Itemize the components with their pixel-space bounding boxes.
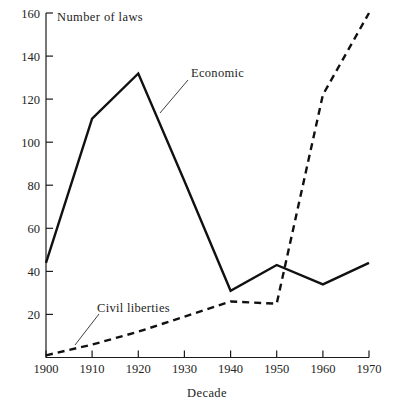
y-tick-label-60: 60 [28, 222, 41, 236]
x-tick-label-1930: 1930 [172, 362, 197, 376]
y-tick-label-120: 120 [21, 93, 40, 107]
x-tick-label-1900: 1900 [34, 362, 59, 376]
x-tick-label-1950: 1950 [264, 362, 289, 376]
x-tick-label-1910: 1910 [80, 362, 105, 376]
line-chart-canvas: 160 140 120 100 80 60 40 20 1900 1910 19… [0, 0, 399, 409]
civil-liberties-leader-line [75, 314, 99, 345]
economic-leader-line [160, 80, 188, 113]
x-tick-label-1960: 1960 [310, 362, 335, 376]
y-tick-label-20: 20 [28, 308, 41, 322]
y-tick-label-160: 160 [21, 7, 40, 21]
series-label-civil-liberties: Civil liberties [97, 301, 170, 315]
series-line-economic [46, 74, 369, 291]
x-axis-caption: Decade [187, 386, 227, 400]
y-tick-label-140: 140 [21, 50, 40, 64]
y-tick-label-100: 100 [21, 136, 40, 150]
x-tick-label-1920: 1920 [126, 362, 151, 376]
y-axis-ticks [46, 13, 53, 314]
series-label-economic: Economic [191, 66, 244, 80]
y-axis-caption: Number of laws [57, 10, 143, 24]
series-line-civil-liberties [46, 13, 369, 355]
chart-figure: 160 140 120 100 80 60 40 20 1900 1910 19… [0, 0, 399, 409]
x-tick-label-1940: 1940 [218, 362, 243, 376]
x-tick-label-1970: 1970 [357, 362, 382, 376]
y-tick-label-80: 80 [28, 179, 41, 193]
x-axis-ticks [46, 351, 369, 358]
y-tick-label-40: 40 [28, 265, 41, 279]
